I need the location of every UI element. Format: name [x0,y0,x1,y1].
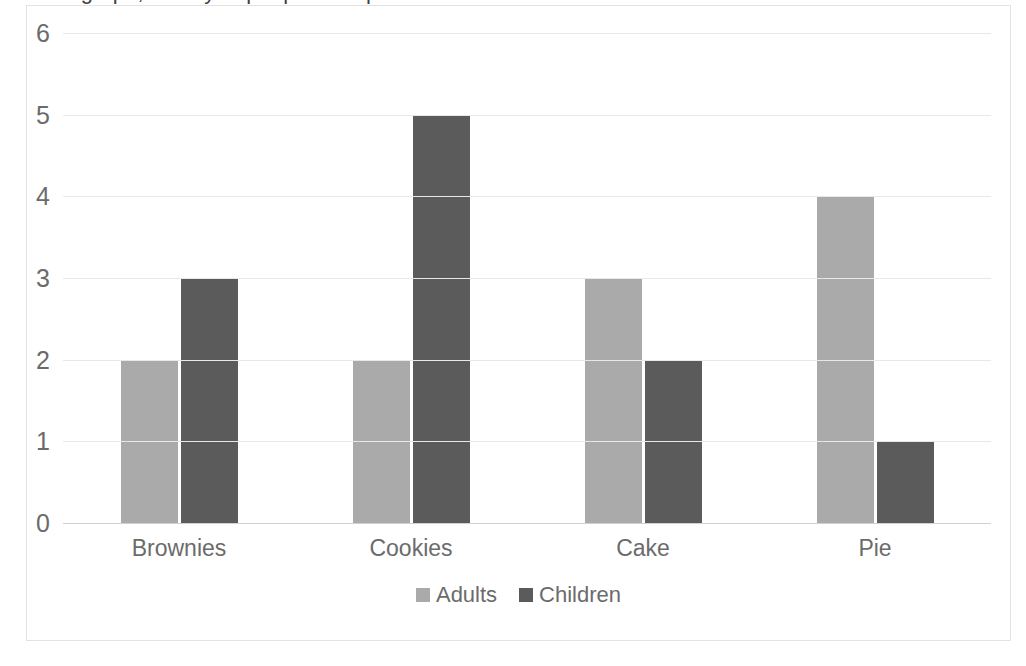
y-axis-tick-2: 2 [36,347,50,372]
category-axis: BrowniesCookiesCakePie [63,531,991,565]
chart-legend: AdultsChildren [27,584,1010,606]
gridline-1 [63,441,991,442]
gridline-3 [63,278,991,279]
y-axis-tick-0: 0 [36,511,50,536]
y-axis-tick-4: 4 [36,184,50,209]
legend-swatch-icon-adults [416,588,430,602]
legend-label-adults: Adults [436,584,497,606]
gridline-2 [63,360,991,361]
bar-brownies-children[interactable] [181,278,238,523]
y-axis-tick-6: 6 [36,21,50,46]
x-axis-label-pie: Pie [759,531,991,565]
plot-area: 6543210 [63,33,991,523]
y-axis-tick-3: 3 [36,266,50,291]
y-axis-tick-1: 1 [36,429,50,454]
chart-frame: 6543210 BrowniesCookiesCakePie AdultsChi… [26,5,1011,641]
bar-cake-adults[interactable] [585,278,642,523]
gridline-4 [63,196,991,197]
x-axis-label-cake: Cake [527,531,759,565]
legend-item-children[interactable]: Children [519,584,621,606]
legend-label-children: Children [539,584,621,606]
legend-swatch-icon-children [519,588,533,602]
x-axis-label-brownies: Brownies [63,531,295,565]
bar-pie-children[interactable] [877,441,934,523]
x-axis-label-cookies: Cookies [295,531,527,565]
bar-cookies-children[interactable] [413,115,470,523]
legend-item-adults[interactable]: Adults [416,584,497,606]
gridline-5 [63,115,991,116]
y-axis-tick-5: 5 [36,102,50,127]
axis-baseline [63,523,991,524]
gridline-6 [63,33,991,34]
